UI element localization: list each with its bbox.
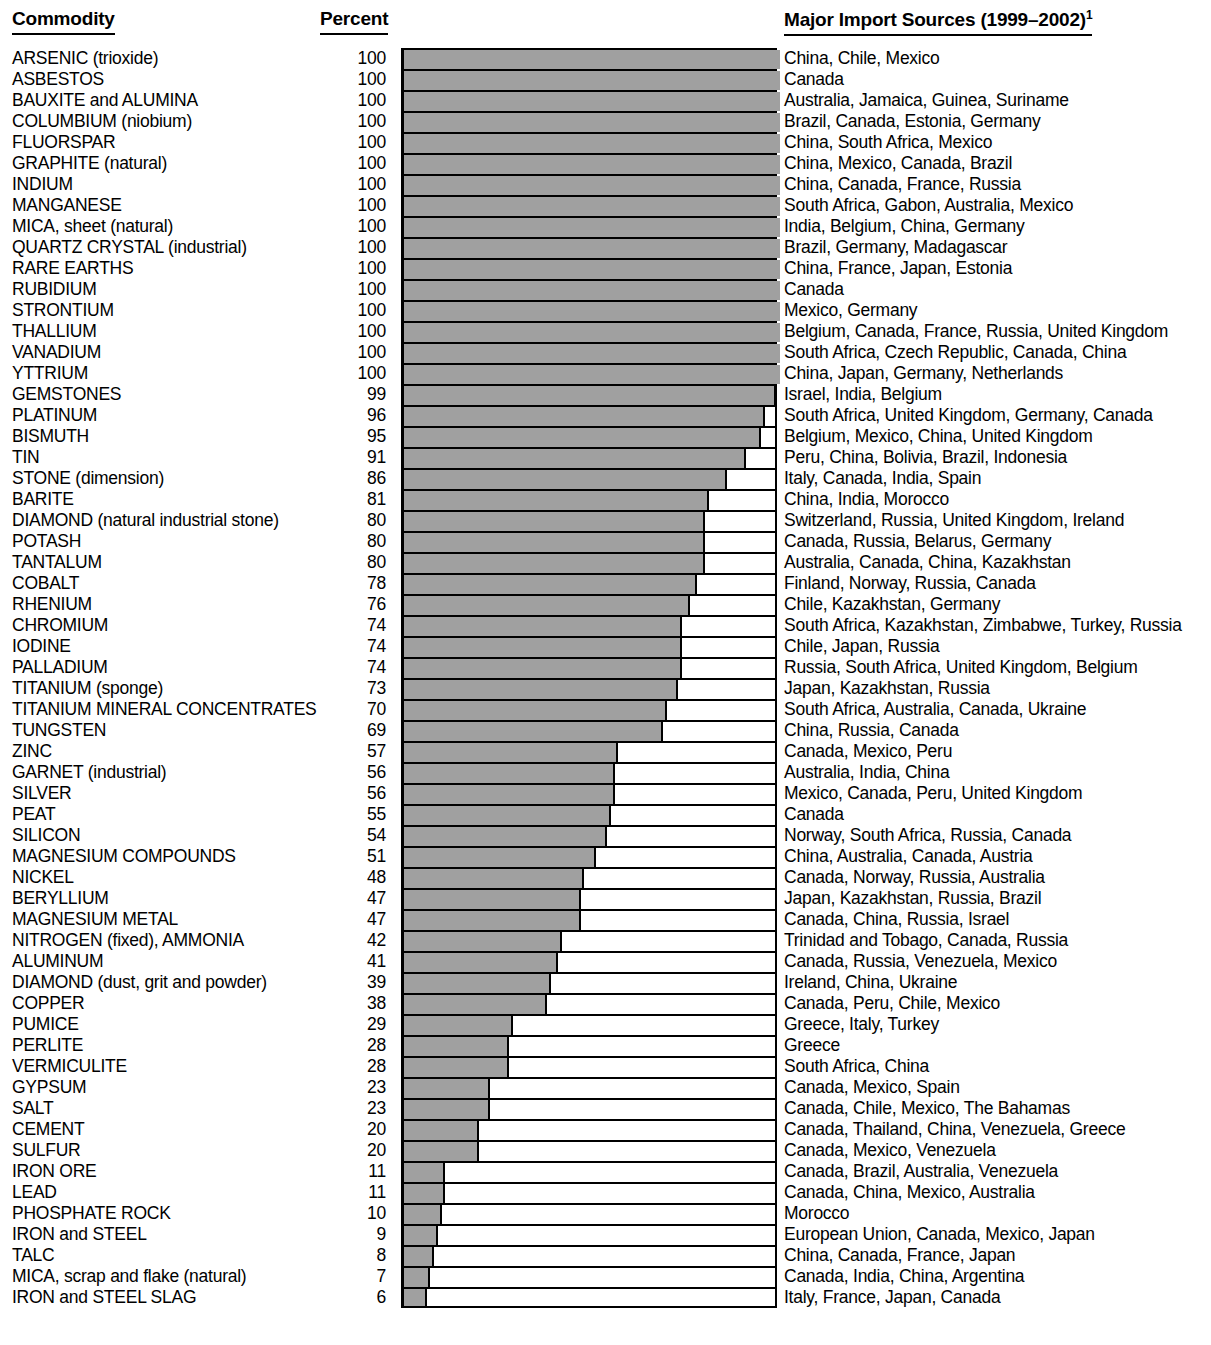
bar-fill — [404, 1226, 438, 1245]
bar-fill — [404, 1163, 445, 1182]
chart-row: GRAPHITE (natural)100China, Mexico, Cana… — [0, 153, 1211, 174]
bar-track — [401, 489, 777, 510]
bar-track — [401, 783, 777, 804]
bar-track — [401, 909, 777, 930]
import-sources-label: Greece — [784, 1035, 840, 1056]
commodity-label: TIN — [12, 447, 39, 468]
bar-track — [401, 300, 777, 321]
chart-row: IRON and STEEL9European Union, Canada, M… — [0, 1224, 1211, 1245]
percent-value: 100 — [300, 69, 386, 90]
bar-fill — [404, 1016, 513, 1035]
commodity-label: ASBESTOS — [12, 69, 104, 90]
percent-value: 100 — [300, 300, 386, 321]
commodity-label: IRON and STEEL — [12, 1224, 147, 1245]
bar-track — [401, 846, 777, 867]
import-sources-label: Canada — [784, 69, 844, 90]
import-sources-label: Ireland, China, Ukraine — [784, 972, 957, 993]
chart-row: RARE EARTHS100China, France, Japan, Esto… — [0, 258, 1211, 279]
commodity-label: NITROGEN (fixed), AMMONIA — [12, 930, 244, 951]
bar-fill — [404, 869, 584, 888]
import-sources-label: South Africa, Kazakhstan, Zimbabwe, Turk… — [784, 615, 1182, 636]
commodity-label: YTTRIUM — [12, 363, 88, 384]
commodity-label: MANGANESE — [12, 195, 122, 216]
bar-track — [401, 615, 777, 636]
import-sources-label: Norway, South Africa, Russia, Canada — [784, 825, 1071, 846]
bar-track — [401, 1098, 777, 1119]
percent-value: 6 — [300, 1287, 386, 1308]
commodity-label: INDIUM — [12, 174, 73, 195]
percent-value: 56 — [300, 762, 386, 783]
chart-row: STRONTIUM100Mexico, Germany — [0, 300, 1211, 321]
commodity-label: BISMUTH — [12, 426, 89, 447]
bar-fill — [404, 1268, 430, 1287]
commodity-label: IRON and STEEL SLAG — [12, 1287, 196, 1308]
chart-row: BARITE81China, India, Morocco — [0, 489, 1211, 510]
percent-value: 9 — [300, 1224, 386, 1245]
percent-value: 100 — [300, 174, 386, 195]
bar-fill — [404, 911, 581, 930]
bar-track — [401, 216, 777, 237]
import-sources-label: Chile, Japan, Russia — [784, 636, 940, 657]
import-sources-label: Canada, Russia, Belarus, Germany — [784, 531, 1051, 552]
bar-fill — [404, 470, 727, 489]
percent-value: 80 — [300, 531, 386, 552]
percent-value: 42 — [300, 930, 386, 951]
bar-fill — [404, 890, 581, 909]
commodity-label: COPPER — [12, 993, 84, 1014]
bar-track — [401, 1245, 777, 1266]
bar-fill — [404, 1205, 442, 1224]
percent-value: 80 — [300, 552, 386, 573]
percent-value: 73 — [300, 678, 386, 699]
bar-track — [401, 1224, 777, 1245]
bar-track — [401, 1203, 777, 1224]
commodity-label: VANADIUM — [12, 342, 101, 363]
percent-value: 70 — [300, 699, 386, 720]
commodity-label: PALLADIUM — [12, 657, 108, 678]
import-sources-label: Canada, Thailand, China, Venezuela, Gree… — [784, 1119, 1125, 1140]
import-sources-label: Russia, South Africa, United Kingdom, Be… — [784, 657, 1138, 678]
import-sources-label: China, India, Morocco — [784, 489, 949, 510]
percent-value: 95 — [300, 426, 386, 447]
import-sources-label: China, Australia, Canada, Austria — [784, 846, 1033, 867]
import-sources-label: South Africa, Australia, Canada, Ukraine — [784, 699, 1086, 720]
column-header-percent: Percent — [320, 8, 388, 35]
bar-fill — [404, 596, 690, 615]
bar-track — [401, 573, 777, 594]
percent-value: 100 — [300, 279, 386, 300]
chart-row: QUARTZ CRYSTAL (industrial)100Brazil, Ge… — [0, 237, 1211, 258]
import-sources-label: Canada, India, China, Argentina — [784, 1266, 1024, 1287]
bar-fill — [404, 449, 746, 468]
bar-track — [401, 1077, 777, 1098]
chart-row: MAGNESIUM METAL47Canada, China, Russia, … — [0, 909, 1211, 930]
percent-value: 100 — [300, 48, 386, 69]
import-sources-label: Canada, China, Russia, Israel — [784, 909, 1009, 930]
percent-value: 74 — [300, 636, 386, 657]
import-sources-label: Italy, France, Japan, Canada — [784, 1287, 1000, 1308]
chart-row: TIN91Peru, China, Bolivia, Brazil, Indon… — [0, 447, 1211, 468]
bar-track — [401, 510, 777, 531]
commodity-label: SULFUR — [12, 1140, 81, 1161]
percent-value: 47 — [300, 888, 386, 909]
bar-fill — [404, 113, 780, 132]
bar-track — [401, 951, 777, 972]
bar-track — [401, 342, 777, 363]
commodity-label: QUARTZ CRYSTAL (industrial) — [12, 237, 247, 258]
percent-value: 55 — [300, 804, 386, 825]
bar-fill — [404, 743, 618, 762]
percent-value: 74 — [300, 615, 386, 636]
bar-fill — [404, 1079, 490, 1098]
percent-value: 100 — [300, 132, 386, 153]
column-header-commodity-label: Commodity — [12, 8, 115, 29]
bar-track — [401, 111, 777, 132]
bar-track — [401, 279, 777, 300]
import-sources-label: Greece, Italy, Turkey — [784, 1014, 939, 1035]
bar-fill — [404, 134, 780, 153]
commodity-label: VERMICULITE — [12, 1056, 127, 1077]
chart-row: ARSENIC (trioxide)100China, Chile, Mexic… — [0, 48, 1211, 69]
bar-fill — [404, 575, 697, 594]
chart-row: COBALT78Finland, Norway, Russia, Canada — [0, 573, 1211, 594]
bar-track — [401, 657, 777, 678]
percent-value: 96 — [300, 405, 386, 426]
chart-row: VANADIUM100South Africa, Czech Republic,… — [0, 342, 1211, 363]
chart-row: COPPER38Canada, Peru, Chile, Mexico — [0, 993, 1211, 1014]
